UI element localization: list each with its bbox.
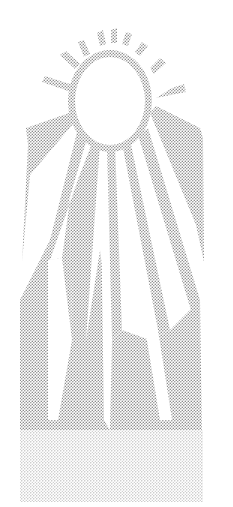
sun-disc (68, 50, 152, 152)
sun-rays-illustration (0, 0, 233, 507)
